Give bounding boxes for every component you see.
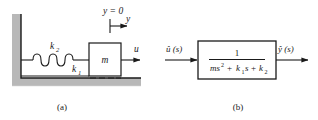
- mass-block: m: [89, 43, 121, 76]
- k2-letter: k: [50, 41, 55, 51]
- y-axis-label: y: [125, 14, 131, 24]
- label-k2: k 2: [50, 41, 60, 53]
- spring-k2: [21, 54, 89, 66]
- numerator-label: 1: [235, 48, 240, 58]
- datum-reference: y = 0 y: [102, 6, 131, 33]
- label-k1: k 1: [72, 64, 81, 76]
- k1-letter: k: [72, 64, 77, 74]
- ground-slab: [12, 78, 141, 86]
- panel-b-group: û (s) 1 ms 2 + k 1 s + k 2: [165, 41, 308, 112]
- u-label: u: [134, 44, 139, 54]
- input-signal: û (s): [165, 44, 197, 60]
- transfer-function-block: 1 ms 2 + k 1 s + k 2: [198, 41, 276, 79]
- denominator-ms: ms: [210, 63, 220, 73]
- output-signal: ŷ (s): [276, 44, 308, 60]
- input-label: û (s): [166, 44, 182, 54]
- output-label: ŷ (s): [277, 44, 294, 54]
- wall-support: [12, 14, 141, 86]
- k1-subscript: 1: [78, 69, 81, 76]
- figure-container: k 2 k 1 m: [0, 0, 318, 120]
- denominator-plus-1: +: [227, 63, 232, 73]
- force-arrow-u: u: [121, 44, 140, 60]
- denominator-k1-s: s: [245, 63, 249, 73]
- spring-coil: [33, 54, 73, 66]
- mass-label: m: [102, 55, 109, 65]
- caption-a: (a): [57, 102, 67, 112]
- denominator-k2-sub: 2: [265, 69, 268, 75]
- denominator-exponent: 2: [221, 62, 224, 68]
- caption-b: (b): [233, 102, 244, 112]
- datum-label: y = 0: [102, 6, 123, 16]
- panel-a-group: k 2 k 1 m: [12, 6, 141, 112]
- k2-subscript: 2: [56, 46, 60, 53]
- vertical-wall: [12, 14, 21, 86]
- engineering-figure: k 2 k 1 m: [0, 0, 318, 120]
- denominator-plus-2: +: [251, 63, 256, 73]
